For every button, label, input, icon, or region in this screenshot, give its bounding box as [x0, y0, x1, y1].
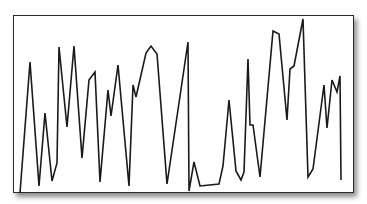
line-chart: [0, 0, 367, 204]
data-series-line: [20, 19, 341, 193]
